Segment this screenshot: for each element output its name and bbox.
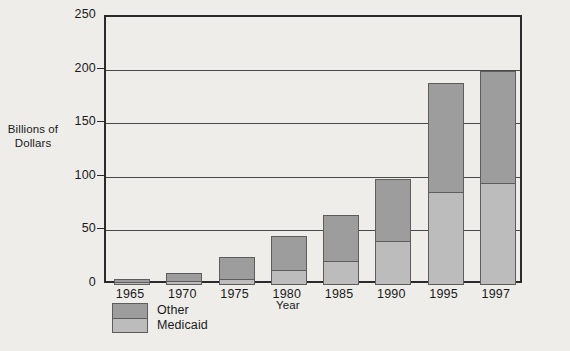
bar-segment-medicaid-1970 [166,281,202,285]
x-tick-label-1985: 1985 [309,287,369,301]
legend-swatch-other [113,304,147,319]
legend: Other Medicaid [112,303,208,333]
legend-label-medicaid: Medicaid [157,318,208,333]
bar-1975 [219,257,255,285]
bar-1970 [166,273,202,285]
bar-segment-medicaid-1980 [271,270,307,285]
bar-segment-medicaid-1997 [480,183,516,285]
x-tick-label-1965: 1965 [100,287,160,301]
y-tick-mark-200 [97,68,104,69]
bar-1985 [323,215,359,285]
y-tick-label-250: 250 [60,8,96,20]
x-tick-label-1997: 1997 [466,287,526,301]
y-tick-label-50: 50 [60,222,96,234]
y-tick-mark-50 [97,228,104,229]
legend-swatch [112,303,148,333]
legend-label-group: Other Medicaid [157,303,208,333]
plot-area [104,15,522,283]
bar-segment-other-1975 [219,257,255,279]
bar-segment-medicaid-1975 [219,279,255,285]
gridline-200 [106,70,520,71]
x-tick-label-1975: 1975 [205,287,265,301]
bar-segment-other-1995 [428,83,464,192]
y-tick-label-100: 100 [60,169,96,181]
legend-label-other: Other [157,303,208,318]
y-axis-title: Billions of Dollars [2,122,64,150]
legend-swatch-medicaid [113,319,147,333]
bar-1990 [375,179,411,285]
x-tick-label-1995: 1995 [414,287,474,301]
bar-segment-medicaid-1985 [323,261,359,285]
x-tick-label-1970: 1970 [152,287,212,301]
bar-segment-other-1985 [323,215,359,262]
y-tick-mark-100 [97,175,104,176]
bar-1997 [480,71,516,285]
bar-segment-medicaid-1965 [114,282,150,285]
y-tick-label-200: 200 [60,62,96,74]
bar-1980 [271,236,307,285]
bar-segment-other-1980 [271,236,307,271]
bar-segment-other-1997 [480,71,516,185]
figure-stacked-bar-chart: Billions of Dollars 050100150200250 1965… [0,0,570,351]
y-tick-label-0: 0 [60,276,96,288]
y-axis-title-line2: Dollars [2,136,64,150]
y-axis-title-line1: Billions of [2,122,64,136]
bar-1995 [428,83,464,285]
bar-segment-medicaid-1990 [375,241,411,285]
x-tick-label-1990: 1990 [361,287,421,301]
bar-segment-other-1990 [375,179,411,242]
x-axis-title: Year [276,299,300,311]
bar-1965 [114,279,150,285]
y-tick-mark-150 [97,121,104,122]
bar-segment-medicaid-1995 [428,192,464,285]
y-tick-label-150: 150 [60,115,96,127]
